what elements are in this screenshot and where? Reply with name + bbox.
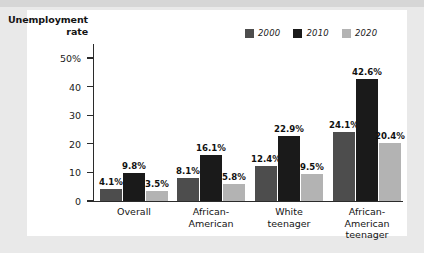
- bar-value-label: 12.4%: [251, 154, 281, 164]
- x-axis-category-label: African- American: [188, 206, 233, 229]
- bar-value-label: 24.1%: [329, 120, 359, 130]
- bar-2010-2: [278, 136, 300, 201]
- bar-2010-0: [123, 173, 145, 201]
- bar-value-label: 3.5%: [145, 179, 169, 189]
- bar-2010-1: [200, 155, 222, 201]
- bar-value-label: 42.6%: [352, 67, 382, 77]
- bar-2020-1: [223, 184, 245, 201]
- bar-2000-2: [255, 166, 277, 201]
- bar-2000-1: [177, 178, 199, 201]
- x-axis-category-label: Overall: [117, 206, 151, 218]
- x-axis-category-label: White teenager: [267, 206, 310, 229]
- bar-2000-0: [100, 189, 122, 201]
- bar-2020-3: [379, 143, 401, 201]
- bar-value-label: 20.4%: [375, 131, 405, 141]
- bar-value-label: 22.9%: [274, 124, 304, 134]
- x-axis-category-label: African- American teenager: [344, 206, 389, 241]
- bar-value-label: 8.1%: [176, 166, 200, 176]
- bar-value-label: 16.1%: [196, 143, 226, 153]
- bar-value-label: 4.1%: [99, 177, 123, 187]
- unemployment-rate-bar-chart: Unemployment rate 50%403020100 200020102…: [0, 0, 424, 253]
- bar-value-label: 9.5%: [300, 162, 324, 172]
- bar-value-label: 9.8%: [122, 161, 146, 171]
- bar-2020-0: [146, 191, 168, 201]
- bar-2000-3: [333, 132, 355, 201]
- bar-value-label: 5.8%: [222, 172, 246, 182]
- bar-2020-2: [301, 174, 323, 201]
